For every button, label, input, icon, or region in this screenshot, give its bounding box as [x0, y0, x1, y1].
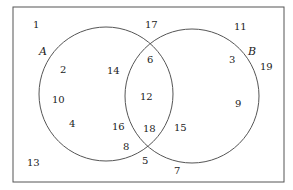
set-a-label: A	[38, 45, 47, 58]
element-3-b-only: 3	[229, 54, 235, 65]
element-6-a-and-b: 6	[147, 54, 153, 65]
element-10-a-only: 10	[52, 94, 65, 105]
element-11-outside: 11	[234, 21, 247, 32]
element-5-outside: 5	[142, 155, 148, 166]
element-15-b-only: 15	[174, 122, 187, 133]
element-2-a-only: 2	[60, 64, 66, 75]
venn-diagram: A B 11711191357214104168612183915	[0, 0, 293, 190]
element-13-outside: 13	[27, 157, 40, 168]
element-4-a-only: 4	[69, 118, 75, 129]
element-18-a-and-b: 18	[143, 123, 156, 134]
element-14-a-only: 14	[107, 65, 120, 76]
element-7-outside: 7	[174, 165, 180, 176]
element-1-outside: 1	[33, 19, 39, 30]
set-b-label: B	[247, 45, 256, 58]
element-12-a-and-b: 12	[140, 91, 153, 102]
element-19-outside: 19	[260, 61, 273, 72]
element-9-b-only: 9	[235, 98, 241, 109]
element-8-a-only: 8	[123, 141, 129, 152]
element-17-outside: 17	[145, 19, 158, 30]
element-16-a-only: 16	[112, 121, 125, 132]
